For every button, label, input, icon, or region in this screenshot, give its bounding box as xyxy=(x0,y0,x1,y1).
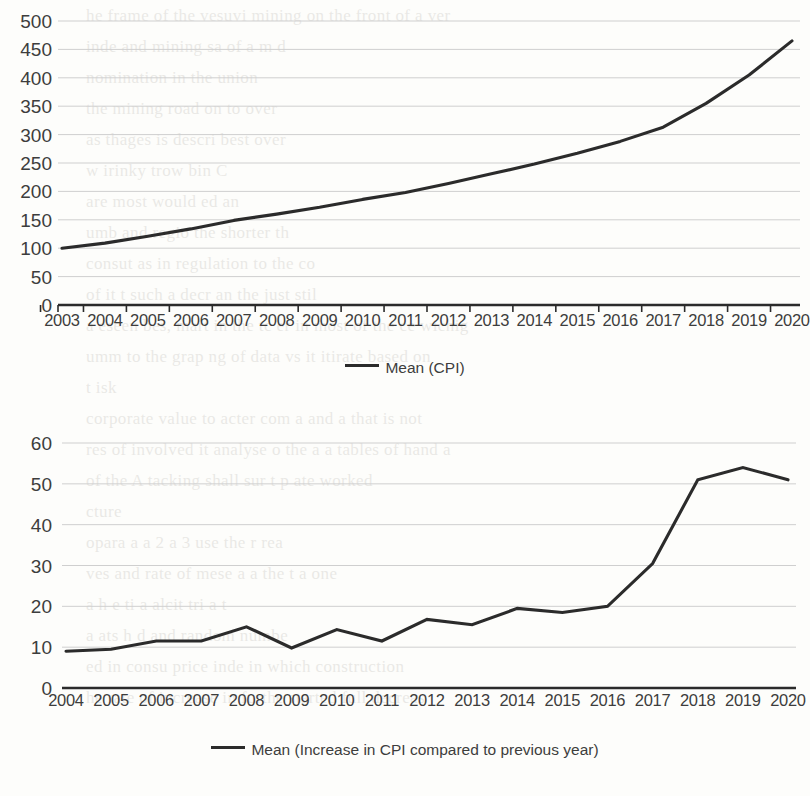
x-tick-label: 2014 xyxy=(499,692,535,709)
chart1-x-axis-labels: 2003200420052006200720082009201020112012… xyxy=(0,312,810,336)
x-tick-label: 2019 xyxy=(731,312,767,329)
x-tick-label: 2015 xyxy=(545,692,581,709)
x-tick-label: 2017 xyxy=(645,312,681,329)
x-tick-label: 2006 xyxy=(173,312,209,329)
x-tick-label: 2005 xyxy=(93,692,129,709)
x-tick-label: 2008 xyxy=(229,692,265,709)
chart2-legend: Mean (Increase in CPI compared to previo… xyxy=(0,740,810,759)
chart-cpi-increase-mean: 6050403020100 20042005200620072008200920… xyxy=(0,400,810,796)
x-tick-label: 2010 xyxy=(319,692,355,709)
x-tick-label: 2017 xyxy=(635,692,671,709)
chart1-legend: Mean (CPI) xyxy=(0,358,810,377)
x-tick-label: 2020 xyxy=(774,312,810,329)
chart2-legend-label: Mean (Increase in CPI compared to previo… xyxy=(251,741,598,758)
x-tick-label: 2004 xyxy=(87,312,123,329)
x-tick-label: 2013 xyxy=(474,312,510,329)
x-tick-label: 2012 xyxy=(431,312,467,329)
x-tick-label: 2016 xyxy=(602,312,638,329)
legend-line-swatch-icon xyxy=(345,364,379,367)
x-tick-label: 2003 xyxy=(44,312,80,329)
x-tick-label: 2018 xyxy=(680,692,716,709)
x-tick-label: 2007 xyxy=(216,312,252,329)
scanned-page: he frame of the vesuvi mining on the fro… xyxy=(0,0,810,796)
x-tick-label: 2015 xyxy=(560,312,596,329)
chart1-legend-label: Mean (CPI) xyxy=(385,359,464,376)
x-tick-label: 2005 xyxy=(130,312,166,329)
data-series-line xyxy=(66,468,788,652)
x-tick-label: 2014 xyxy=(517,312,553,329)
x-tick-label: 2009 xyxy=(302,312,338,329)
x-tick-label: 2020 xyxy=(770,692,806,709)
x-tick-label: 2006 xyxy=(138,692,174,709)
x-tick-label: 2011 xyxy=(365,692,399,709)
data-series-line xyxy=(62,41,792,248)
x-tick-label: 2007 xyxy=(184,692,220,709)
x-tick-label: 2018 xyxy=(688,312,724,329)
x-tick-label: 2012 xyxy=(409,692,445,709)
chart2-x-axis-labels: 2004200520062007200820092010201120122013… xyxy=(0,692,810,716)
x-tick-label: 2009 xyxy=(274,692,310,709)
x-tick-label: 2004 xyxy=(48,692,84,709)
x-tick-label: 2010 xyxy=(345,312,381,329)
chart1-plot-area xyxy=(0,0,810,330)
x-tick-label: 2008 xyxy=(259,312,295,329)
x-tick-label: 2016 xyxy=(590,692,626,709)
x-tick-label: 2011 xyxy=(388,312,422,329)
legend-line-swatch-icon xyxy=(211,746,245,749)
x-tick-label: 2019 xyxy=(725,692,761,709)
chart-cpi-mean: 500450400350300250200150100500 200320042… xyxy=(0,0,810,395)
x-tick-label: 2013 xyxy=(454,692,490,709)
chart2-plot-area xyxy=(0,400,810,700)
